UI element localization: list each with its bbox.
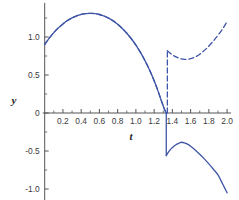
axes-layer bbox=[43, 3, 231, 200]
x-tick-label: 1.4 bbox=[167, 116, 179, 126]
x-tick-label: 0.6 bbox=[94, 116, 106, 126]
x-tick-label: 0.2 bbox=[57, 116, 69, 126]
curves-layer bbox=[45, 13, 227, 193]
x-tick-label: 1.2 bbox=[148, 116, 160, 126]
chart-canvas: 0.20.40.60.81.01.21.41.61.82.0-1.0-0.500… bbox=[0, 0, 239, 200]
y-tick-label: 0.5 bbox=[28, 70, 40, 80]
x-tick-label: 1.6 bbox=[185, 116, 197, 126]
x-tick-label: 2.0 bbox=[221, 116, 233, 126]
y-tick-label: -1.0 bbox=[25, 184, 40, 194]
x-tick-label: 1.0 bbox=[130, 116, 142, 126]
x-tick-label: 1.8 bbox=[203, 116, 215, 126]
y-axis-label: y bbox=[10, 94, 17, 106]
x-tick-label: 0.8 bbox=[112, 116, 124, 126]
curve-segment bbox=[45, 13, 166, 113]
series-solid-branch bbox=[45, 13, 227, 193]
series-dashed-branch bbox=[45, 13, 227, 113]
y-tick-label: 0 bbox=[35, 108, 40, 118]
y-tick-label: 1.0 bbox=[28, 32, 40, 42]
x-axis-label: t bbox=[129, 130, 133, 142]
x-tick-label: 0.4 bbox=[75, 116, 87, 126]
curve-segment bbox=[166, 142, 227, 193]
curve-segment bbox=[45, 13, 166, 113]
y-tick-label: -0.5 bbox=[25, 146, 40, 156]
curve-segment bbox=[167, 21, 227, 59]
chart-figure: 0.20.40.60.81.01.21.41.61.82.0-1.0-0.500… bbox=[0, 0, 239, 200]
